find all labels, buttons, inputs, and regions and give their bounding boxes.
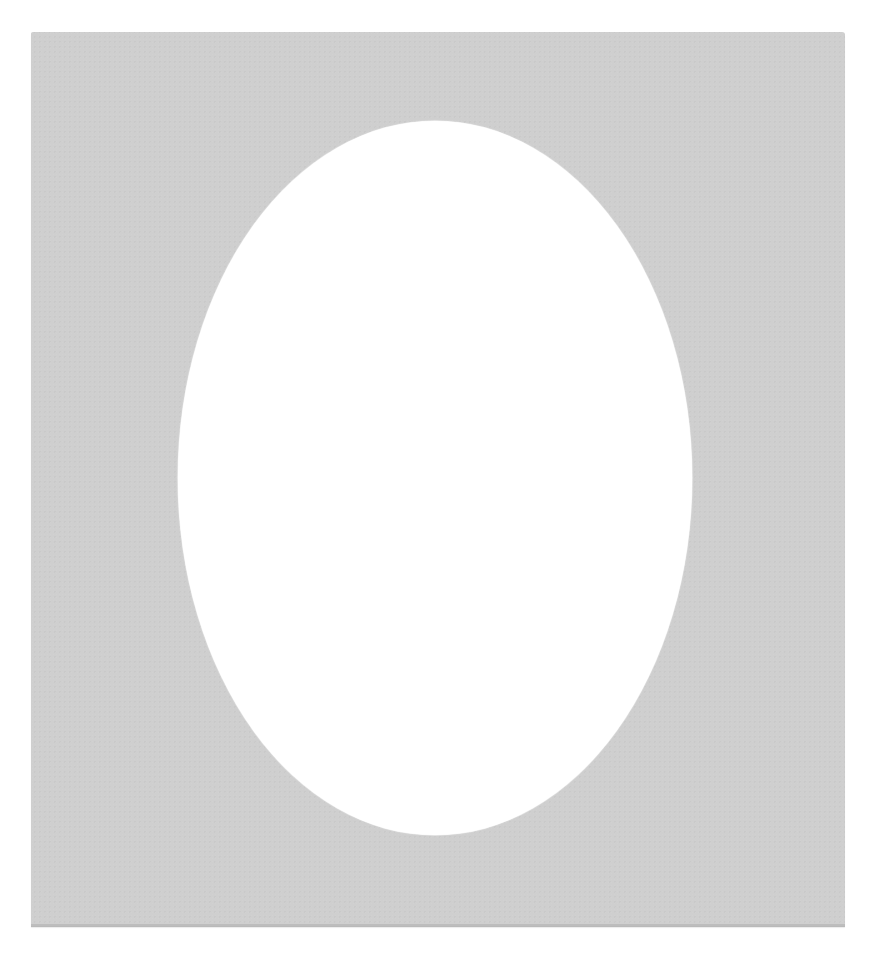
oval-opening [178, 121, 692, 835]
mat-board [31, 32, 845, 926]
mat-bottom-edge [31, 924, 845, 926]
